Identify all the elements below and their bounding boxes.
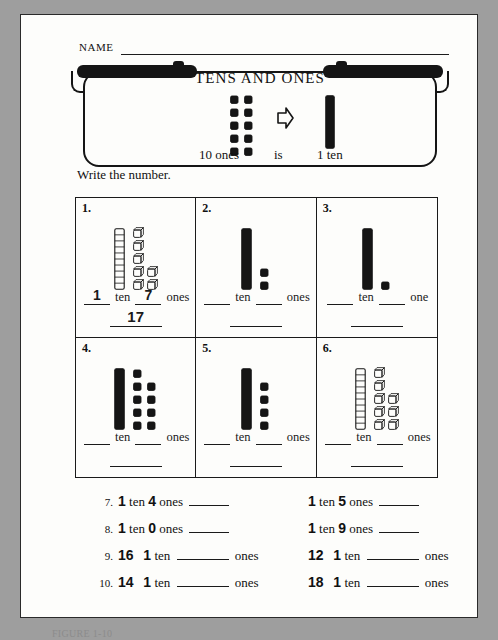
ones-blank-input[interactable] xyxy=(256,431,282,445)
ones-cube-column xyxy=(381,279,392,290)
spacer xyxy=(324,575,334,590)
problem-cell: 4. ten ones xyxy=(76,338,196,478)
label-ones: ones xyxy=(422,548,449,563)
unit-cube-filled xyxy=(260,419,271,430)
ones-blank-input[interactable]: 7 xyxy=(135,291,161,305)
problem-cell: 5. ten ones xyxy=(196,338,316,478)
ten-rod-filled xyxy=(362,228,373,290)
problem-cell: 6. ten ones xyxy=(317,338,437,478)
ones-cubes-group xyxy=(133,227,158,290)
figure-caption: FIGURE 1-10 xyxy=(52,628,112,638)
tens-value: 1 xyxy=(333,547,341,563)
exercise-number: 9. xyxy=(93,550,113,562)
ones-blank-input[interactable] xyxy=(256,291,282,305)
tens-blank-input[interactable] xyxy=(204,431,230,445)
total-blank-input[interactable] xyxy=(351,308,403,327)
unit-cube-outline xyxy=(374,406,385,417)
problem-number: 2. xyxy=(202,201,211,216)
tens-blank-input[interactable] xyxy=(84,431,110,445)
unit-cube-filled xyxy=(133,380,144,391)
label-ten: ten xyxy=(112,430,134,444)
answer-blank-input[interactable] xyxy=(367,575,419,587)
answer-blank-input[interactable] xyxy=(177,575,229,587)
unit-cube-outline xyxy=(388,419,399,430)
right-arrow-outline-icon xyxy=(274,105,296,135)
problem-cell: 1.1 ten 7 ones17 xyxy=(76,198,196,338)
unit-cube-filled xyxy=(230,132,241,143)
base-ten-blocks xyxy=(196,358,315,430)
tens-value: 1 xyxy=(118,520,126,536)
ones-value: 9 xyxy=(338,520,346,536)
unit-cube-filled xyxy=(147,406,158,417)
total-blank-input[interactable] xyxy=(230,308,282,327)
label-ones: ones xyxy=(346,494,376,509)
total-blank-input[interactable] xyxy=(351,448,403,467)
answer-blank-input[interactable] xyxy=(189,521,229,533)
tens-blank-input[interactable]: 1 xyxy=(84,291,110,305)
answer-blank-input[interactable] xyxy=(379,521,419,533)
exercise-row: 8.1 ten 0 ones 1 ten 9 ones xyxy=(75,520,455,547)
title-banner: TENS AND ONES 10 ones is 1 ten xyxy=(69,61,451,173)
number-value: 14 xyxy=(118,574,134,590)
unit-cube-outline xyxy=(374,393,385,404)
base-ten-blocks xyxy=(76,358,195,430)
exercise-item: 1 ten 9 ones xyxy=(283,520,422,537)
tens-blank-input[interactable] xyxy=(325,431,351,445)
ones-blank-input[interactable] xyxy=(135,431,161,445)
label-ones: ones xyxy=(346,521,376,536)
exercise-item: 7.1 ten 4 ones xyxy=(93,493,232,510)
name-label: NAME xyxy=(79,41,113,53)
ones-value: 0 xyxy=(148,520,156,536)
ones-cube-column xyxy=(147,380,158,430)
unit-cube-filled xyxy=(230,119,241,130)
tens-value: 1 xyxy=(308,520,316,536)
answer-blank-input[interactable] xyxy=(189,494,229,506)
unit-cube-outline xyxy=(133,227,144,238)
answer-line: 1 ten 7 ones xyxy=(76,290,195,305)
label-ten: ten xyxy=(341,548,363,563)
problem-grid: 1.1 ten 7 ones172. ten ones3. ten one4. … xyxy=(75,197,438,478)
total-answer-value: 17 xyxy=(110,308,162,325)
total-blank-input[interactable]: 17 xyxy=(110,308,162,327)
ones-cubes-group xyxy=(260,380,271,430)
unit-cube-filled xyxy=(230,93,241,104)
unit-cube-filled xyxy=(260,266,271,277)
exercise-number: 8. xyxy=(93,523,113,535)
unit-cube-filled xyxy=(133,367,144,378)
number-value: 18 xyxy=(308,574,324,590)
ones-cube-column xyxy=(260,266,271,290)
exercise-row: 7.1 ten 4 ones 1 ten 5 ones xyxy=(75,493,455,520)
tens-answer-value: 1 xyxy=(84,287,110,303)
answer-blank-input[interactable] xyxy=(177,548,229,560)
label-ones: ones xyxy=(284,430,310,444)
ones-cube-column xyxy=(260,380,271,430)
unit-cube-outline xyxy=(374,419,385,430)
unit-cube-filled xyxy=(244,93,255,104)
base-ten-blocks xyxy=(317,218,437,290)
unit-cube-filled xyxy=(244,106,255,117)
ones-blank-input[interactable] xyxy=(377,431,403,445)
total-blank-input[interactable] xyxy=(230,448,282,467)
ones-cube-column xyxy=(133,367,144,430)
tens-blank-input[interactable] xyxy=(327,291,353,305)
tens-blank-input[interactable] xyxy=(204,291,230,305)
demo-ten-rod xyxy=(325,95,335,153)
label-ones: ones xyxy=(405,430,431,444)
unit-cube-filled xyxy=(244,119,255,130)
tens-value: 1 xyxy=(143,574,151,590)
unit-cube-outline xyxy=(388,393,399,404)
label-ten: ten xyxy=(112,290,134,304)
answer-line: ten ones xyxy=(196,290,315,305)
label-ten: ten xyxy=(355,290,377,304)
total-blank-input[interactable] xyxy=(110,448,162,467)
name-input-line[interactable] xyxy=(121,54,449,55)
ones-blank-input[interactable] xyxy=(379,291,405,305)
ones-cube-column xyxy=(244,93,255,156)
base-ten-blocks xyxy=(196,218,315,290)
tens-value: 1 xyxy=(333,574,341,590)
answer-blank-input[interactable] xyxy=(379,494,419,506)
number-value: 12 xyxy=(308,547,324,563)
exercise-item: 12 1 ten ones xyxy=(283,547,449,564)
answer-blank-input[interactable] xyxy=(367,548,419,560)
base-ten-blocks xyxy=(76,218,195,290)
